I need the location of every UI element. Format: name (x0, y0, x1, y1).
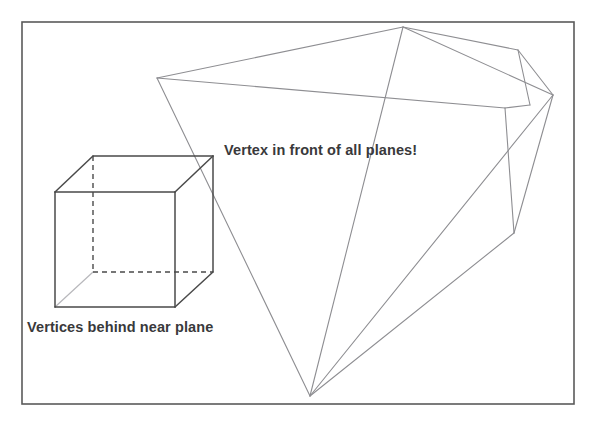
frustum-edge (310, 95, 553, 396)
cube-connector-edge (55, 156, 93, 192)
frustum-edge (157, 27, 403, 78)
frustum-edge (403, 27, 553, 95)
label-vertex-in-front: Vertex in front of all planes! (224, 143, 417, 158)
frustum-edge (403, 27, 518, 50)
figure-container: Vertex in front of all planes! Vertices … (0, 0, 596, 423)
cube-faint-edge (55, 272, 93, 307)
frustum-edge (157, 78, 310, 396)
frustum-edge (514, 95, 553, 233)
cube-solid-edges (55, 156, 213, 307)
cube-faint-edges (55, 272, 93, 307)
frustum-edge (505, 108, 514, 233)
figure-border-group (22, 22, 574, 404)
cube-connector-edge (175, 272, 213, 307)
view-frustum-wireframe (157, 27, 553, 396)
label-vertices-behind: Vertices behind near plane (27, 320, 213, 335)
frustum-edge (157, 78, 505, 108)
diagram-canvas (0, 0, 596, 423)
figure-border (22, 22, 574, 404)
frustum-edge (310, 233, 514, 396)
frustum-edge (505, 105, 530, 108)
cube-connector-edge (175, 156, 213, 192)
frustum-edge (310, 27, 403, 396)
